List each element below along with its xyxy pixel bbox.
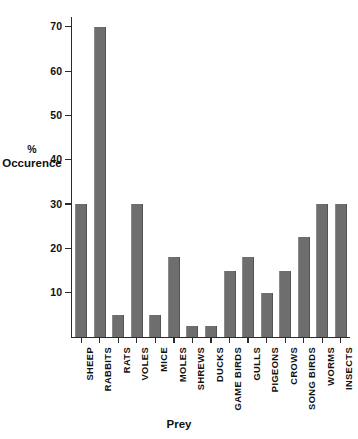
bar [316,204,328,337]
x-axis-tick [322,338,323,343]
bar [242,257,254,337]
y-axis-tick [65,292,71,293]
x-axis-tick-label: PIGEONS [270,347,280,392]
y-axis-tick [65,203,71,204]
x-axis-title: Prey [0,418,358,430]
bar [261,293,273,337]
y-axis-tick [65,248,71,249]
x-axis-tick-label: DUCKS [215,347,225,382]
y-axis-tick [65,71,71,72]
y-axis-tick-label: 70 [22,21,62,32]
bar [298,237,310,337]
bar [224,271,236,337]
x-axis-tick-label: GAME BIRDS [233,347,243,410]
x-axis-tick-label: INSECTS [344,347,354,390]
x-axis-tick-label: VOLES [140,347,150,381]
x-axis-tick-label: WORMS [326,347,336,386]
x-axis-tick-label: CROWS [289,347,299,385]
x-axis-tick [303,338,304,343]
bar [205,326,217,337]
y-axis-tick-label: 30 [22,199,62,210]
x-axis-tick-label: SHEEP [85,347,95,381]
bar [186,326,198,337]
bar [168,257,180,337]
bar [75,204,87,337]
x-axis-tick-label: RATS [122,347,132,373]
x-axis-tick-label: SHREWS [196,347,206,390]
y-axis-tick [65,115,71,116]
bar [335,204,347,337]
x-axis-tick-label: RABBITS [103,347,113,391]
x-axis-tick [285,338,286,343]
y-axis-tick [65,26,71,27]
x-axis-tick [155,338,156,343]
y-axis-tick-label: 20 [22,243,62,254]
bar [112,315,124,337]
y-axis-line [71,17,72,338]
x-axis-tick [340,338,341,343]
x-axis-tick-label: SONG BIRDS [307,347,317,410]
y-axis-tick-label: 60 [22,66,62,77]
x-axis-tick [136,338,137,343]
bar [279,271,291,337]
bar-chart: % Occurence 10203040506070SHEEPRABBITSRA… [0,0,358,439]
y-axis-tick [65,159,71,160]
x-axis-tick [81,338,82,343]
x-axis-tick-label: MOLES [178,347,188,382]
x-axis-tick-label: GULLS [252,347,262,381]
x-axis-tick [192,338,193,343]
x-axis-tick [99,338,100,343]
x-axis-tick [173,338,174,343]
y-axis-tick-label: 10 [22,287,62,298]
y-axis-tick-label: 40 [22,154,62,165]
x-axis-tick [229,338,230,343]
x-axis-tick [210,338,211,343]
x-axis-tick-label: MICE [159,347,169,372]
bar [131,204,143,337]
x-axis-tick [247,338,248,343]
x-axis-tick [118,338,119,343]
bar [94,27,106,337]
x-axis-tick [266,338,267,343]
y-axis-tick-label: 50 [22,110,62,121]
bar [149,315,161,337]
